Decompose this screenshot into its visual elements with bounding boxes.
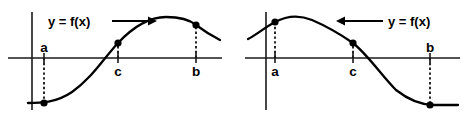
- right-panel-point-b: [426, 101, 433, 108]
- right-panel: a c b y = f(x): [245, 12, 460, 110]
- right-arrow-icon: [112, 17, 157, 26]
- left-panel-label-c: c: [114, 64, 122, 79]
- right-panel-label-c: c: [349, 64, 357, 79]
- left-panel-point-c: [114, 39, 121, 46]
- mean-value-theorem-diagram: a c b y = f(x): [0, 0, 466, 120]
- left-panel-point-b: [192, 21, 199, 28]
- right-panel-function-label: y = f(x): [388, 14, 430, 29]
- left-panel-point-a: [40, 99, 47, 106]
- left-panel-label-a: a: [40, 40, 48, 55]
- left-panel-label-b: b: [192, 64, 200, 79]
- left-panel-curve: [28, 17, 220, 103]
- left-panel: a c b y = f(x): [8, 12, 222, 110]
- right-panel-label-a: a: [271, 64, 279, 79]
- right-panel-label-b: b: [426, 40, 434, 55]
- left-panel-function-label: y = f(x): [48, 14, 90, 29]
- figure-container: a c b y = f(x): [0, 0, 466, 120]
- right-panel-point-c: [349, 39, 356, 46]
- left-arrow-icon: [336, 17, 383, 26]
- right-panel-point-a: [271, 18, 278, 25]
